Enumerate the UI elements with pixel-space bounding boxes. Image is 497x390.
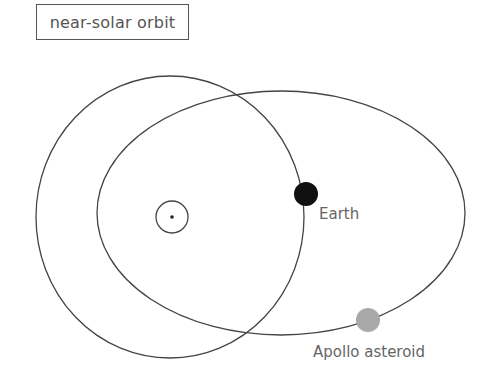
earth-label: Earth [319, 205, 359, 223]
asteroid-icon [356, 308, 380, 332]
sun-icon [156, 201, 188, 233]
orbit-diagram [0, 0, 497, 390]
asteroid-label: Apollo asteroid [313, 343, 425, 361]
earth-icon [294, 182, 318, 206]
asteroid-orbit [97, 91, 465, 335]
earth-orbit [36, 76, 304, 358]
